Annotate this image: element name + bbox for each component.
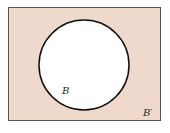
venn-diagram: B B′ xyxy=(0,0,170,133)
set-b-circle xyxy=(39,20,129,110)
set-b-label: B xyxy=(61,85,69,96)
complement-label: B′ xyxy=(142,107,153,118)
